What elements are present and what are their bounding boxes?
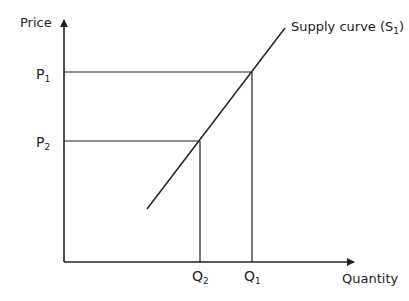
curve-label: Supply curve (S1) bbox=[291, 19, 404, 36]
x-axis-label: Quantity bbox=[342, 271, 398, 286]
quantity-label-q2: Q2 bbox=[192, 268, 209, 286]
y-axis-label: Price bbox=[20, 15, 52, 30]
price-label-p2: P2 bbox=[36, 134, 50, 152]
quantity-label-q1: Q1 bbox=[244, 268, 261, 286]
price-label-p1: P1 bbox=[36, 66, 50, 84]
supply-curve bbox=[147, 28, 285, 209]
supply-diagram: Price Quantity Supply curve (S1) P1 P2 Q… bbox=[0, 0, 409, 301]
